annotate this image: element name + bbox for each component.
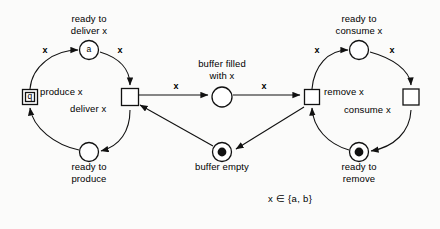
- variable-domain-formula: x ∈ {a, b}: [268, 193, 312, 205]
- arc-remove-to-buffer-empty: [236, 107, 304, 149]
- transition-label-produce: produce x: [40, 86, 83, 98]
- place-ready-to-produce[interactable]: [80, 143, 99, 162]
- place-label-ready-to-consume: ready to consume x: [336, 13, 383, 36]
- petri-net-diagram: ready to deliver x ready to produce buff…: [0, 0, 440, 229]
- arc-deliver-to-ready-produce: [101, 110, 130, 151]
- arc-label-remove-to-ready-consume: x: [314, 45, 319, 57]
- place-inner-label-ready-to-deliver: a: [87, 44, 92, 56]
- arc-produce-to-ready-deliver: [30, 50, 78, 89]
- arc-ready-deliver-to-deliver: [100, 52, 130, 85]
- token-marker: [218, 148, 227, 157]
- arc-buffer-empty-to-deliver: [140, 105, 213, 146]
- place-label-ready-to-produce: ready to produce: [71, 161, 106, 184]
- transition-label-consume: consume x: [344, 104, 391, 116]
- place-label-ready-to-remove: ready to remove: [341, 161, 376, 184]
- transition-deliver[interactable]: [122, 89, 139, 106]
- token-marker: [355, 148, 364, 157]
- place-ready-to-remove[interactable]: [350, 143, 369, 162]
- arc-ready-consume-to-consume: [370, 52, 411, 85]
- arc-label-ready-deliver-to-deliver: x: [117, 45, 122, 57]
- transition-label-deliver: deliver x: [70, 103, 106, 115]
- arc-consume-to-ready-remove: [371, 110, 411, 151]
- arc-label-deliver-to-buffer-filled: x: [173, 81, 178, 93]
- place-buffer-filled[interactable]: [212, 87, 232, 107]
- place-ready-to-consume[interactable]: [350, 41, 369, 60]
- arc-label-buffer-filled-to-remove: x: [261, 81, 266, 93]
- transition-inner-label-produce: q: [28, 91, 33, 103]
- transition-label-remove: remove x: [324, 86, 364, 98]
- place-label-buffer-empty: buffer empty: [195, 161, 249, 173]
- place-label-ready-to-deliver: ready to deliver x: [71, 13, 107, 36]
- place-buffer-empty[interactable]: [213, 143, 232, 162]
- transition-remove[interactable]: [305, 90, 320, 105]
- place-label-buffer-filled: buffer filled with x: [198, 58, 246, 81]
- arc-label-produce-to-ready-deliver: x: [42, 45, 47, 57]
- arc-label-ready-consume-to-consume: x: [389, 45, 394, 57]
- transition-consume[interactable]: [403, 89, 419, 105]
